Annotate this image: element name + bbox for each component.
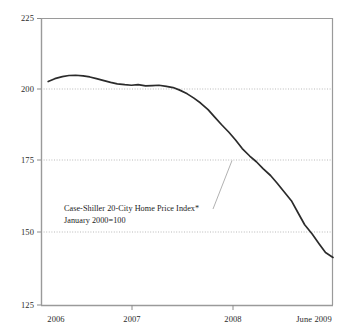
x-axis-label-2006: 2006 bbox=[26, 314, 86, 324]
chart-container: 225 200 175 150 125 2006 2007 2008 June … bbox=[0, 0, 347, 335]
annotation-line-2: January 2000=100 bbox=[64, 215, 199, 227]
y-axis-label-125: 125 bbox=[0, 300, 34, 310]
x-axis-label-2008: 2008 bbox=[203, 314, 263, 324]
y-tick-marks bbox=[37, 19, 41, 306]
annotation-line-1: Case-Shiller 20-City Home Price Index* bbox=[64, 203, 199, 215]
chart-plot-area bbox=[0, 0, 347, 335]
y-axis-label-175: 175 bbox=[0, 155, 34, 165]
series-line-case-shiller bbox=[48, 75, 333, 257]
x-axis-label-2007: 2007 bbox=[102, 314, 162, 324]
x-axis-label-june-2009: June 2009 bbox=[283, 314, 345, 324]
series-annotation: Case-Shiller 20-City Home Price Index* J… bbox=[64, 203, 199, 226]
y-axis-label-225: 225 bbox=[0, 13, 34, 23]
y-axis-label-200: 200 bbox=[0, 84, 34, 94]
annotation-leader-line bbox=[213, 161, 232, 210]
axis-frame bbox=[41, 18, 333, 306]
y-axis-label-150: 150 bbox=[0, 227, 34, 237]
